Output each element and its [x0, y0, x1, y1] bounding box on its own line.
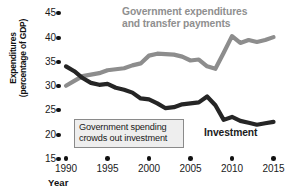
series-label-investment: Investment	[204, 127, 257, 138]
callout-line-2: crowds out investment	[79, 133, 179, 144]
series-label-line-2: and transfer payments	[122, 18, 292, 30]
crowding-out-callout: Government spending crowds out investmen…	[74, 119, 184, 148]
series-label-government-expenditures: Government expenditures and transfer pay…	[122, 6, 292, 31]
series-line-government-expenditures	[66, 36, 274, 86]
chart-figure: Expenditures (percentage of GDP) 45 40 3…	[0, 0, 297, 196]
series-label-line-1: Government expenditures	[122, 6, 292, 18]
callout-line-1: Government spending	[79, 122, 179, 133]
